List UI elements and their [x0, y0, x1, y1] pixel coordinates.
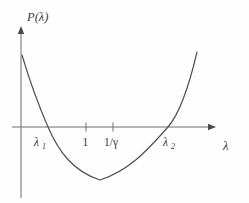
- root-label-lambda2: λ 2: [162, 136, 175, 151]
- y-axis-arrowhead: [18, 26, 24, 34]
- root-label-lambda1: λ 1: [33, 136, 46, 151]
- x-axis-label: λ: [222, 139, 229, 153]
- root-label-lambda2-base: λ: [162, 136, 168, 148]
- tick-label-one: 1: [83, 136, 89, 148]
- parabola-plot: P(λ) λ λ 1 1 1/γ λ 2: [0, 0, 249, 203]
- math-figure: P(λ) λ λ 1 1 1/γ λ 2: [0, 0, 249, 203]
- root-label-lambda1-base: λ: [33, 136, 39, 148]
- root-label-lambda1-subscript: 1: [42, 142, 46, 151]
- root-label-lambda2-subscript: 2: [171, 142, 175, 151]
- tick-label-one-over-gamma: 1/γ: [104, 136, 118, 149]
- parabola-curve: [22, 52, 197, 180]
- y-axis-label: P(λ): [26, 10, 48, 24]
- x-axis-arrowhead: [208, 124, 216, 130]
